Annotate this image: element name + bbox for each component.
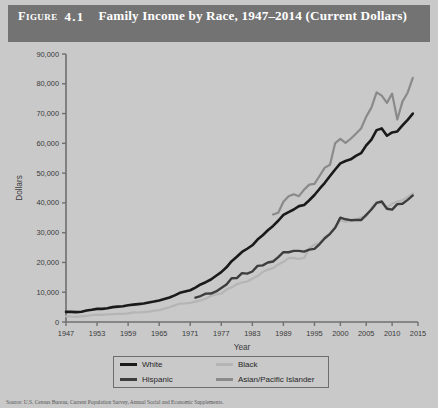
y-tick-label: 80,000 (36, 79, 59, 88)
source-note: Source: U.S. Census Bureau, Current Popu… (6, 399, 436, 405)
line-chart: 010,00020,00030,00040,00050,00060,00070,… (0, 42, 438, 352)
chart-plot-area: 010,00020,00030,00040,00050,00060,00070,… (0, 42, 438, 352)
x-tick-label: 2010 (384, 329, 400, 338)
figure-number: 4.1 (65, 8, 85, 25)
y-tick-label: 50,000 (36, 169, 59, 178)
x-tick-label: 1965 (151, 329, 167, 338)
legend-swatch (216, 363, 233, 366)
y-tick-label: 60,000 (36, 139, 59, 148)
data-series-group (66, 78, 413, 317)
x-tick-label: 1983 (244, 329, 260, 338)
series-line-hispanic (195, 195, 412, 297)
figure-label: Figure (18, 8, 58, 24)
legend-item-hispanic: Hispanic (120, 372, 216, 387)
legend-item-asian-pacific-islander: Asian/Pacific Islander (216, 372, 336, 387)
legend-item-black: Black (216, 357, 336, 372)
y-axis-ticks: 010,00020,00030,00040,00050,00060,00070,… (36, 50, 66, 327)
y-tick-label: 0 (55, 318, 59, 327)
legend-swatch (216, 378, 233, 381)
x-tick-label: 2000 (332, 329, 348, 338)
chart-legend: WhiteBlackHispanicAsian/Pacific Islander (113, 356, 329, 388)
x-tick-label: 1947 (58, 329, 74, 338)
legend-label: White (142, 360, 162, 369)
x-tick-label: 1959 (120, 329, 136, 338)
figure-title-band: Figure 4.1 Family Income by Race, 1947–2… (8, 5, 430, 42)
figure-title-text: Family Income by Race, 1947–2014 (Curren… (98, 8, 407, 24)
legend-item-white: White (120, 357, 216, 372)
x-tick-label: 1971 (182, 329, 198, 338)
legend-label: Hispanic (142, 375, 173, 384)
y-tick-label: 40,000 (36, 198, 59, 207)
series-line-asian-pacific-islander (273, 78, 413, 215)
y-tick-label: 20,000 (36, 258, 59, 267)
x-tick-label: 1995 (306, 329, 322, 338)
x-axis-title: Year (234, 343, 251, 352)
y-tick-label: 10,000 (36, 288, 59, 297)
legend-label: Asian/Pacific Islander (238, 375, 314, 384)
x-tick-label: 1977 (213, 329, 229, 338)
legend-swatch (120, 363, 137, 366)
x-tick-label: 1989 (275, 329, 291, 338)
figure-container: Figure 4.1 Family Income by Race, 1947–2… (0, 0, 438, 408)
x-tick-label: 2015 (410, 329, 426, 338)
y-axis-title: Dollars (15, 175, 24, 200)
legend-swatch (120, 378, 137, 381)
x-tick-label: 2005 (358, 329, 374, 338)
x-tick-label: 1953 (89, 329, 105, 338)
y-tick-label: 90,000 (36, 50, 59, 59)
x-axis-ticks: 1947195319591965197119771983198919952000… (58, 322, 426, 338)
y-tick-label: 70,000 (36, 109, 59, 118)
y-tick-label: 30,000 (36, 228, 59, 237)
legend-label: Black (238, 360, 258, 369)
